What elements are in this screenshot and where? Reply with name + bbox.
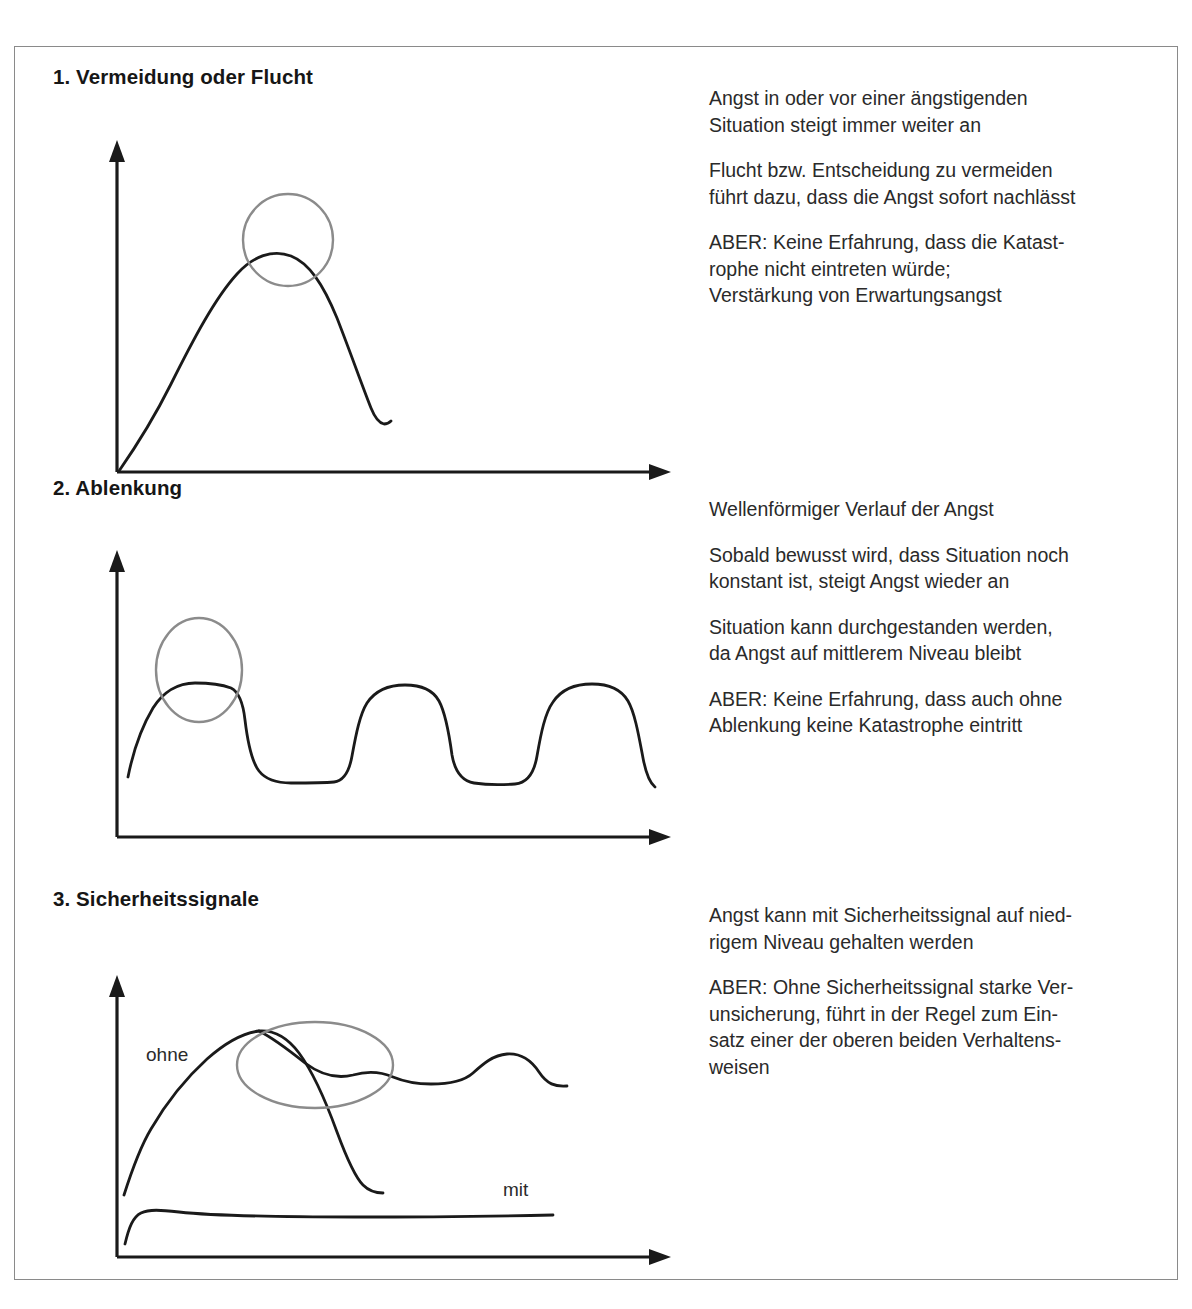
chart-3-svg xyxy=(75,927,695,1272)
section-1-heading: 1. Vermeidung oder Flucht xyxy=(53,65,313,89)
chart-2-annotation-ellipse xyxy=(156,618,242,722)
chart-2-x-axis-arrowhead xyxy=(649,829,671,845)
section-2-text-column: Wellenförmiger Verlauf der Angst Sobald … xyxy=(709,496,1129,739)
chart-1-annotation-circle xyxy=(243,194,333,286)
chart-3-label-mit: mit xyxy=(503,1179,528,1201)
chart-2-series-wellenverlauf xyxy=(128,683,655,787)
section-3-paragraph-2: ABER: Ohne Sicherheitssignal starke Ver-… xyxy=(709,974,1129,1080)
section-2-paragraph-2: Sobald bewusst wird, dass Situation noch… xyxy=(709,542,1129,595)
section-1-text-column: Angst in oder vor einer ängstigenden Sit… xyxy=(709,85,1129,309)
section-3-paragraph-1: Angst kann mit Sicherheitssignal auf nie… xyxy=(709,902,1129,955)
section-2-paragraph-4: ABER: Keine Erfahrung, dass auch ohne Ab… xyxy=(709,686,1129,739)
chart-3-y-axis-arrowhead xyxy=(109,975,125,997)
section-3-text-column: Angst kann mit Sicherheitssignal auf nie… xyxy=(709,902,1129,1080)
section-2-paragraph-3: Situation kann durchgestanden werden, da… xyxy=(709,614,1129,667)
chart-1-svg xyxy=(75,132,695,452)
chart-3-series-nach-verlust xyxy=(259,1031,567,1086)
chart-2-y-axis-arrowhead xyxy=(109,550,125,572)
chart-1-x-axis-arrowhead xyxy=(649,464,671,480)
section-1-paragraph-1: Angst in oder vor einer ängstigenden Sit… xyxy=(709,85,1129,138)
section-3-heading: 3. Sicherheitssignale xyxy=(53,887,259,911)
chart-3-x-axis-arrowhead xyxy=(649,1249,671,1265)
chart-2-ablenkung xyxy=(75,542,695,862)
section-2-paragraph-1: Wellenförmiger Verlauf der Angst xyxy=(709,496,1129,523)
chart-3-sicherheitssignale xyxy=(75,927,695,1272)
diagram-frame: 1. Vermeidung oder Flucht Angst in oder … xyxy=(14,46,1178,1280)
section-2-heading: 2. Ablenkung xyxy=(53,476,182,500)
chart-3-label-ohne: ohne xyxy=(146,1044,188,1066)
chart-3-annotation-ellipse xyxy=(237,1022,393,1108)
page-root: 1. Vermeidung oder Flucht Angst in oder … xyxy=(0,0,1192,1309)
section-1-paragraph-3: ABER: Keine Erfahrung, dass die Katast- … xyxy=(709,229,1129,309)
chart-1-y-axis-arrowhead xyxy=(109,140,125,162)
chart-3-series-mit xyxy=(125,1210,553,1244)
chart-2-svg xyxy=(75,542,695,862)
section-1-paragraph-2: Flucht bzw. Entscheidung zu vermeiden fü… xyxy=(709,157,1129,210)
chart-1-vermeidung xyxy=(75,132,695,452)
chart-1-series-angstverlauf xyxy=(119,253,391,471)
